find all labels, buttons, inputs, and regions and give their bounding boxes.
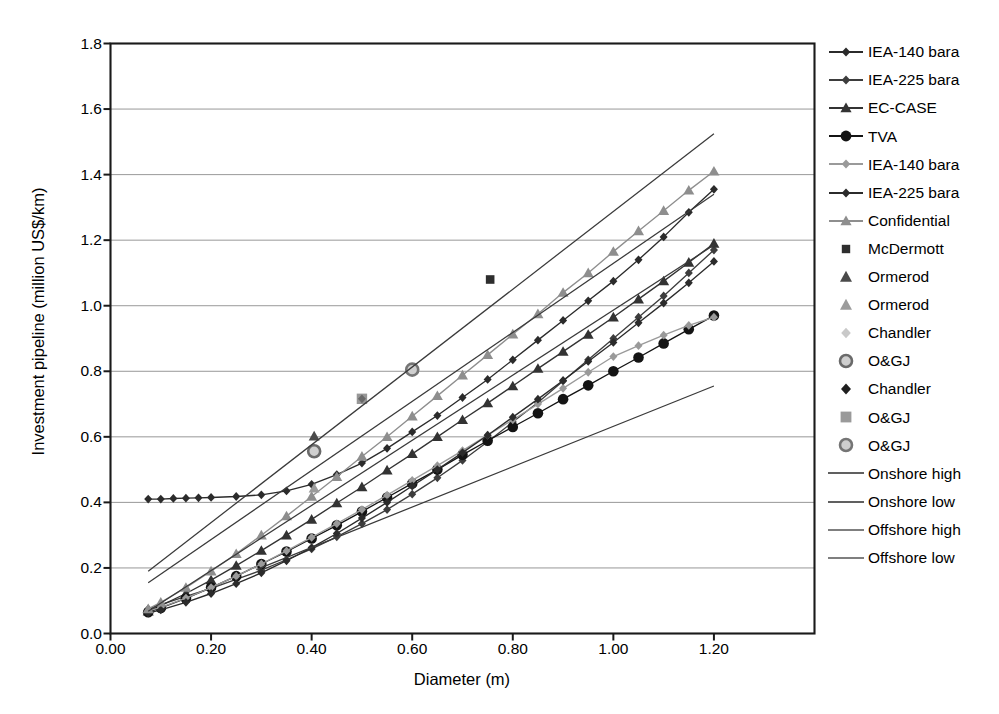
legend-item-label: Ormerod — [868, 269, 929, 285]
marker-diamond — [408, 490, 416, 499]
legend-marker-diamond — [841, 328, 851, 338]
marker-triangle — [231, 560, 242, 570]
legend-item[interactable]: Offshore high — [826, 516, 999, 544]
legend-item-label: Confidential — [868, 213, 950, 229]
marker-diamond — [257, 490, 265, 499]
data-series — [256, 386, 714, 570]
legend-key-icon — [826, 236, 866, 262]
marker-circle-ring — [308, 445, 320, 457]
legend-item[interactable]: Onshore low — [826, 488, 999, 516]
legend-item[interactable]: Ormerod — [826, 291, 999, 319]
marker-triangle — [306, 514, 317, 524]
plot-border — [111, 44, 815, 634]
marker-diamond — [584, 296, 592, 305]
series-line — [148, 194, 714, 582]
marker-diamond — [195, 493, 203, 502]
marker-diamond — [509, 355, 517, 364]
marker-diamond — [169, 494, 177, 503]
series-line — [148, 134, 714, 572]
grid-lines — [111, 44, 815, 568]
marker-diamond — [584, 357, 592, 366]
marker-diamond — [609, 352, 617, 361]
legend-item[interactable]: Confidential — [826, 207, 999, 235]
marker-triangle — [457, 414, 468, 424]
chart-figure: Investment pipeline (million US$/km) 0.0… — [0, 0, 999, 714]
legend-key-icon — [826, 517, 866, 543]
legend-item-label: O&GJ — [868, 410, 910, 426]
marker-diamond — [484, 375, 492, 384]
x-tick-label: 1.20 — [679, 641, 749, 657]
data-series-group — [143, 134, 720, 618]
data-series — [144, 257, 718, 618]
legend-item[interactable]: O&GJ — [826, 403, 999, 431]
legend-item[interactable]: O&GJ — [826, 347, 999, 375]
legend-item-label: Ormerod — [868, 297, 929, 313]
marker-triangle — [482, 398, 493, 408]
marker-diamond — [232, 492, 240, 501]
legend-item[interactable]: Ormerod — [826, 263, 999, 291]
legend-item[interactable]: IEA-140 bara — [826, 150, 999, 178]
legend-marker-circle — [841, 131, 852, 142]
x-tick-label: 0.80 — [478, 641, 548, 657]
marker-diamond — [559, 384, 567, 393]
marker-diamond — [182, 494, 190, 503]
x-tick-label: 1.00 — [578, 641, 648, 657]
legend-marker-diamond — [842, 47, 851, 56]
marker-circle — [633, 352, 644, 363]
data-series — [144, 185, 718, 504]
series-line — [256, 386, 714, 570]
legend-item-label: Chandler — [868, 325, 931, 341]
marker-triangle — [708, 238, 719, 248]
legend-item-label: Chandler — [868, 381, 931, 397]
marker-circle — [583, 380, 594, 391]
marker-triangle — [382, 465, 393, 475]
legend-key-icon — [826, 320, 866, 346]
legend-item-label: McDermott — [868, 241, 944, 257]
marker-circle — [558, 394, 569, 405]
marker-triangle — [356, 451, 367, 461]
marker-triangle — [306, 491, 317, 501]
legend-item-label: IEA-140 bara — [868, 157, 959, 173]
legend-item[interactable]: EC-CASE — [826, 94, 999, 122]
legend-item[interactable]: IEA-225 bara — [826, 66, 999, 94]
data-series — [143, 310, 719, 617]
marker-diamond — [635, 341, 643, 350]
marker-triangle — [708, 166, 719, 176]
chart-legend: IEA-140 baraIEA-225 baraEC-CASETVAIEA-14… — [826, 38, 999, 572]
marker-triangle — [683, 185, 694, 195]
legend-key-icon — [826, 151, 866, 177]
legend-item[interactable]: O&GJ — [826, 431, 999, 459]
legend-item[interactable]: TVA — [826, 122, 999, 150]
marker-diamond — [408, 428, 416, 437]
data-series — [148, 134, 714, 572]
data-series — [143, 166, 720, 613]
legend-marker-square-soft — [841, 412, 852, 423]
legend-item-label: O&GJ — [868, 353, 910, 369]
legend-item-label: O&GJ — [868, 438, 910, 454]
marker-triangle — [256, 545, 267, 555]
legend-item[interactable]: McDermott — [826, 235, 999, 263]
x-tick-label: 0.60 — [377, 641, 447, 657]
series-line — [148, 171, 714, 609]
marker-circle — [608, 366, 619, 377]
legend-key-icon — [826, 545, 866, 571]
legend-key-icon — [826, 376, 866, 402]
legend-item-label: Offshore low — [868, 550, 955, 566]
marker-diamond — [660, 331, 668, 340]
x-tick-label: 0.00 — [76, 641, 146, 657]
legend-item-label: Offshore high — [868, 522, 961, 538]
axis-frame — [111, 44, 815, 634]
legend-key-icon — [826, 264, 866, 290]
legend-item[interactable]: IEA-140 bara — [826, 38, 999, 66]
legend-item[interactable]: Chandler — [826, 319, 999, 347]
marker-triangle — [583, 329, 594, 339]
legend-marker-diamond — [842, 188, 851, 197]
legend-item[interactable]: Offshore low — [826, 544, 999, 572]
legend-item[interactable]: IEA-225 bara — [826, 178, 999, 206]
marker-diamond — [534, 336, 542, 345]
legend-item-label: Onshore low — [868, 494, 955, 510]
legend-item[interactable]: Onshore high — [826, 459, 999, 487]
legend-key-icon — [826, 180, 866, 206]
legend-item[interactable]: Chandler — [826, 375, 999, 403]
data-series — [309, 431, 320, 441]
